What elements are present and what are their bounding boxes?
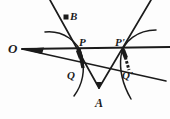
geometry-figure: O B P P' Q Q' A <box>0 0 170 119</box>
label-point-P: P <box>79 37 86 48</box>
tick-segment-Pprime-Qprime-upper <box>123 50 126 58</box>
label-point-B: B <box>70 11 77 22</box>
point-B-dot <box>64 15 69 20</box>
ray-O-upper <box>22 47 170 49</box>
label-point-Q: Q <box>67 70 75 81</box>
ray-O-lower <box>22 49 166 81</box>
right-arc <box>120 30 156 99</box>
label-point-P-prime: P' <box>115 37 125 48</box>
label-point-A: A <box>95 97 103 109</box>
figure-canvas <box>0 0 170 119</box>
left-arc <box>45 32 83 96</box>
label-point-O: O <box>8 42 17 55</box>
label-point-Q-prime: Q' <box>122 70 133 81</box>
tick-segment-PQ-upper <box>78 50 81 58</box>
